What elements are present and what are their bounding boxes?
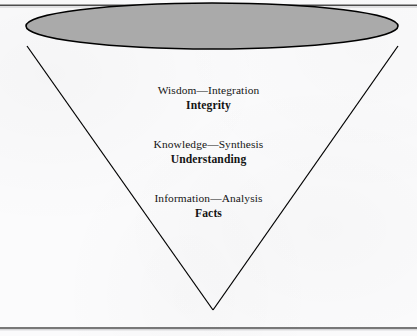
tier-label-wisdom: Wisdom—Integration Integrity: [0, 84, 417, 113]
tier-wisdom-secondary-text: Integrity: [0, 99, 417, 113]
tier-label-knowledge: Knowledge—Synthesis Understanding: [0, 138, 417, 167]
figure-container: Wisdom—Integration Integrity Knowledge—S…: [0, 0, 417, 336]
cone-top-ellipse: [26, 3, 398, 49]
tier-information-primary-text: Information—Analysis: [0, 192, 417, 205]
tier-wisdom-primary-text: Wisdom—Integration: [0, 84, 417, 97]
tier-label-information: Information—Analysis Facts: [0, 192, 417, 221]
cone-diagram-svg: [0, 0, 417, 336]
tier-information-secondary-text: Facts: [0, 207, 417, 221]
tier-knowledge-secondary-text: Understanding: [0, 153, 417, 167]
tier-knowledge-primary-text: Knowledge—Synthesis: [0, 138, 417, 151]
